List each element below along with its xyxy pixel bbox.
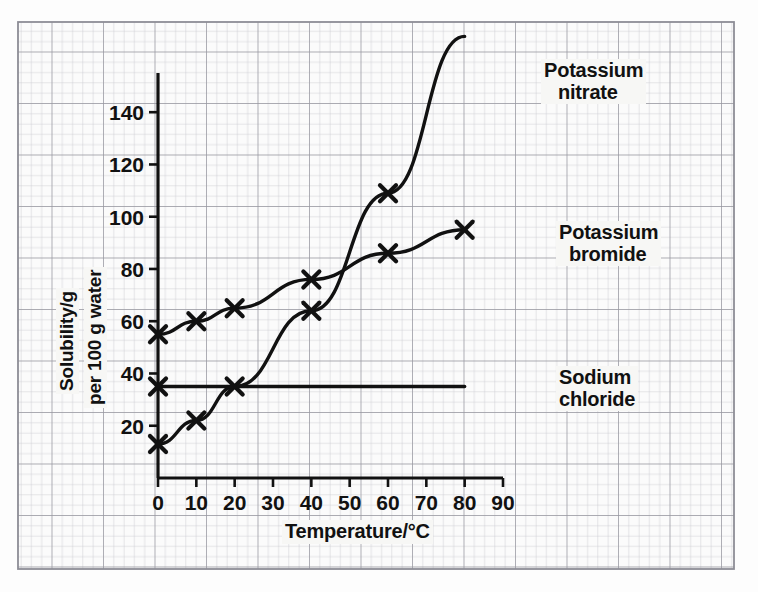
annotation-potassium-nitrate: Potassium nitrate: [541, 59, 646, 104]
annotation-potassium-bromide-line2: bromide: [559, 244, 658, 266]
y-tick-label: 80: [121, 258, 144, 281]
x-tick-label: 40: [300, 491, 323, 514]
solubility-chart-figure: 010203040506070809020406080100120140 Pot…: [0, 0, 758, 592]
annotation-sodium-chloride-line2: chloride: [559, 389, 635, 411]
y-tick-label: 20: [121, 415, 144, 438]
y-axis-title-line1: Solubility/g: [56, 288, 79, 394]
y-tick-label: 120: [109, 153, 144, 176]
annotation-potassium-nitrate-line2: nitrate: [544, 82, 643, 104]
y-tick-label: 40: [121, 362, 144, 385]
annotation-sodium-chloride: Sodium chloride: [556, 366, 638, 411]
y-tick-label: 140: [109, 101, 144, 124]
y-tick-label: 60: [121, 310, 144, 333]
y-tick-label: 100: [109, 206, 144, 229]
y-axis-title-line2: per 100 g water: [84, 267, 107, 408]
x-tick-label: 90: [491, 491, 514, 514]
annotation-potassium-bromide-line1: Potassium: [559, 222, 658, 244]
x-tick-label: 30: [261, 491, 284, 514]
annotation-potassium-nitrate-line1: Potassium: [544, 60, 643, 82]
x-tick-label: 80: [453, 491, 476, 514]
x-axis-title: Temperature/°C: [282, 520, 433, 544]
x-tick-label: 60: [376, 491, 399, 514]
annotation-potassium-bromide: Potassium bromide: [556, 221, 661, 266]
x-tick-label: 50: [338, 491, 361, 514]
x-tick-label: 20: [223, 491, 246, 514]
y-axis-title-secondary: per 100 g water: [84, 222, 110, 412]
y-axis-title: Solubility/g: [56, 228, 82, 398]
x-tick-label: 10: [185, 491, 208, 514]
annotation-sodium-chloride-line1: Sodium: [559, 367, 635, 389]
x-tick-label: 70: [415, 491, 438, 514]
x-tick-label: 0: [152, 491, 164, 514]
